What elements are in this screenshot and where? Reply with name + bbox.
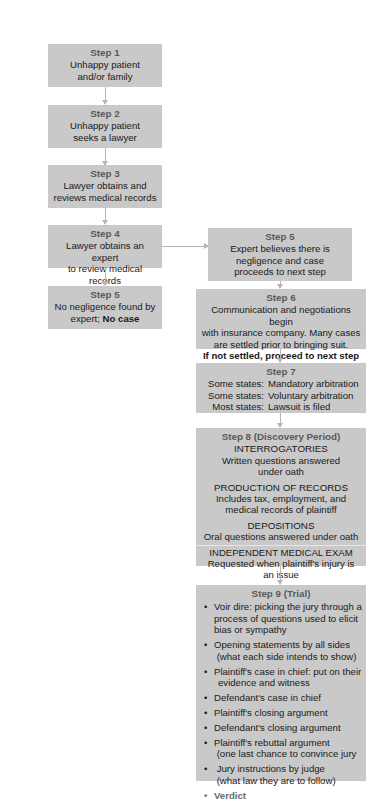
arrow-down-icon <box>105 87 106 104</box>
section-heading: PRODUCTION OF RECORDS <box>200 482 362 493</box>
list-item: Plaintiff's closing argument <box>204 707 362 718</box>
item-text: process of questions used to elicit <box>214 613 362 624</box>
item-text: Plaintiff's rebuttal argument <box>214 737 362 748</box>
list-item: Defendant's case in chief <box>204 692 362 703</box>
step-5-proceed-box: Step 5 Expert believes there is negligen… <box>208 228 352 281</box>
arrow-down-icon <box>105 208 106 224</box>
step-text: Lawyer obtains an expert <box>52 240 158 263</box>
row-label: Some states: <box>202 378 268 389</box>
section-heading: DEPOSITIONS <box>200 520 362 531</box>
arrow-down-icon <box>280 413 281 427</box>
step-9-box: Step 9 (Trial) Voir dire: picking the ju… <box>196 585 366 781</box>
divider <box>196 545 366 546</box>
list-item: Plaintiff's rebuttal argument (one last … <box>204 737 362 760</box>
step-text: negligence and case <box>212 255 348 266</box>
step-text: Unhappy patient <box>52 120 158 131</box>
row-label: Most states: <box>202 401 268 412</box>
item-text: (what each side intends to show) <box>214 651 362 662</box>
row-value: Lawsuit is filed <box>268 401 360 412</box>
step-2-box: Step 2 Unhappy patient seeks a lawyer <box>48 105 162 148</box>
step-title: Step 1 <box>52 47 158 58</box>
step-text: No negligence found by <box>52 301 158 312</box>
section-text: Requested when plaintiff's injury is <box>200 558 362 569</box>
list-item-verdict: Verdict <box>204 790 362 801</box>
step-title: Step 2 <box>52 108 158 119</box>
trial-steps-list: Voir dire: picking the jury through a pr… <box>200 601 362 801</box>
section-text: Oral questions answered under oath <box>200 531 362 542</box>
step-text: Lawyer obtains and <box>52 180 158 191</box>
step-8-box: Step 8 (Discovery Period) INTERROGATORIE… <box>196 428 366 566</box>
step-text: are settled prior to bringing suit. <box>200 339 362 350</box>
arrow-down-icon <box>105 148 106 165</box>
item-text: (what law they are to follow) <box>214 775 362 786</box>
item-text: Plaintiff's case in chief: put on their <box>214 666 362 677</box>
arrow-down-icon <box>105 268 106 285</box>
section-text: under oath <box>200 466 362 477</box>
section-heading: INTERROGATORIES <box>200 443 362 454</box>
step-text: and/or family <box>52 71 158 82</box>
step-text: reviews medical records <box>52 192 158 203</box>
step-7-row: Some states: Voluntary arbitration <box>200 390 362 401</box>
item-text: (one last chance to convince jury <box>214 748 362 759</box>
step-title: Step 8 (Discovery Period) <box>200 431 362 442</box>
row-value: Voluntary arbitration <box>268 390 360 401</box>
item-text: Voir dire: picking the jury through a <box>214 601 362 612</box>
list-item: Opening statements by all sides (what ea… <box>204 639 362 662</box>
no-case-label: No case <box>103 313 140 324</box>
step-text: proceeds to next step <box>212 266 348 277</box>
step-text: Expert believes there is <box>212 243 348 254</box>
arrow-right-icon <box>162 246 208 247</box>
step-3-box: Step 3 Lawyer obtains and reviews medica… <box>48 165 162 208</box>
section-text: medical records of plaintiff <box>200 504 362 515</box>
step-7-row: Most states: Lawsuit is filed <box>200 401 362 412</box>
section-text: Includes tax, employment, and <box>200 493 362 504</box>
arrow-down-icon <box>280 566 281 584</box>
step-title: Step 3 <box>52 168 158 179</box>
step-title: Step 6 <box>200 292 362 303</box>
step-1-box: Step 1 Unhappy patient and/or family <box>48 44 162 87</box>
step-title: Step 7 <box>200 366 362 377</box>
list-item: Jury instructions by judge (what law the… <box>204 763 362 786</box>
section-text: Written questions answered <box>200 455 362 466</box>
list-item: Voir dire: picking the jury through a pr… <box>204 601 362 635</box>
list-item: Defendant's closing argument <box>204 722 362 733</box>
item-text: Jury instructions by judge <box>214 763 362 774</box>
section-heading: INDEPENDENT MEDICAL EXAM <box>200 547 362 558</box>
item-text: evidence and witness <box>214 677 362 688</box>
item-text: bias or sympathy <box>214 624 362 635</box>
step-title: Step 5 <box>52 289 158 300</box>
step-text: Communication and negotiations begin <box>200 304 362 327</box>
step-title: Step 4 <box>52 228 158 239</box>
arrow-down-icon <box>280 281 281 288</box>
item-text: Plaintiff's closing argument <box>214 707 362 718</box>
step-text: seeks a lawyer <box>52 132 158 143</box>
step-7-box: Step 7 Some states: Mandatory arbitratio… <box>196 363 366 413</box>
step-6-box: Step 6 Communication and negotiations be… <box>196 289 366 349</box>
step-7-row: Some states: Mandatory arbitration <box>200 378 362 389</box>
arrow-down-icon <box>280 349 281 362</box>
item-text: Opening statements by all sides <box>214 639 362 650</box>
step-title: Step 9 (Trial) <box>200 588 362 599</box>
item-text: Defendant's closing argument <box>214 722 362 733</box>
list-item: Plaintiff's case in chief: put on their … <box>204 666 362 689</box>
step-text: Unhappy patient <box>52 59 158 70</box>
step-5-no-case-box: Step 5 No negligence found by expert; No… <box>48 286 162 329</box>
row-label: Some states: <box>202 390 268 401</box>
step-title: Step 5 <box>212 231 348 242</box>
step-text: with insurance company. Many cases <box>200 327 362 338</box>
step-4-box: Step 4 Lawyer obtains an expert to revie… <box>48 225 162 268</box>
item-text: Verdict <box>214 790 362 801</box>
row-value: Mandatory arbitration <box>268 378 360 389</box>
step-text-line: expert; No case <box>52 313 158 324</box>
item-text: Defendant's case in chief <box>214 692 362 703</box>
step-text: expert; <box>71 313 103 324</box>
